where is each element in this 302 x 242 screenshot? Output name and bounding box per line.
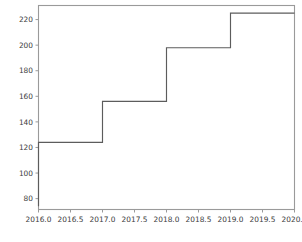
x-tick-label: 2017.5 xyxy=(122,215,148,224)
y-tick-label: 140 xyxy=(19,118,33,127)
x-tick-label: 2016.5 xyxy=(58,215,84,224)
figure-background xyxy=(0,0,302,242)
y-tick-label: 200 xyxy=(19,41,33,50)
y-tick-label: 120 xyxy=(19,143,33,152)
y-tick-label: 220 xyxy=(19,15,33,24)
x-tick-label: 2018.5 xyxy=(186,215,212,224)
x-tick-label: 2019.5 xyxy=(250,215,276,224)
step-chart: 80100120140160180200220 2016.02016.52017… xyxy=(0,0,302,242)
y-tick-label: 180 xyxy=(19,66,33,75)
y-tick-label: 100 xyxy=(19,169,33,178)
x-tick-label: 2018.0 xyxy=(154,215,180,224)
x-tick-label: 2020.0 xyxy=(282,215,302,224)
x-tick-labels: 2016.02016.52017.02017.52018.02018.52019… xyxy=(26,215,302,224)
y-tick-label: 160 xyxy=(19,92,33,101)
chart-figure: 80100120140160180200220 2016.02016.52017… xyxy=(0,0,302,242)
x-tick-label: 2016.0 xyxy=(26,215,52,224)
x-tick-label: 2019.0 xyxy=(218,215,244,224)
y-tick-label: 80 xyxy=(24,194,34,203)
x-tick-label: 2017.0 xyxy=(90,215,116,224)
